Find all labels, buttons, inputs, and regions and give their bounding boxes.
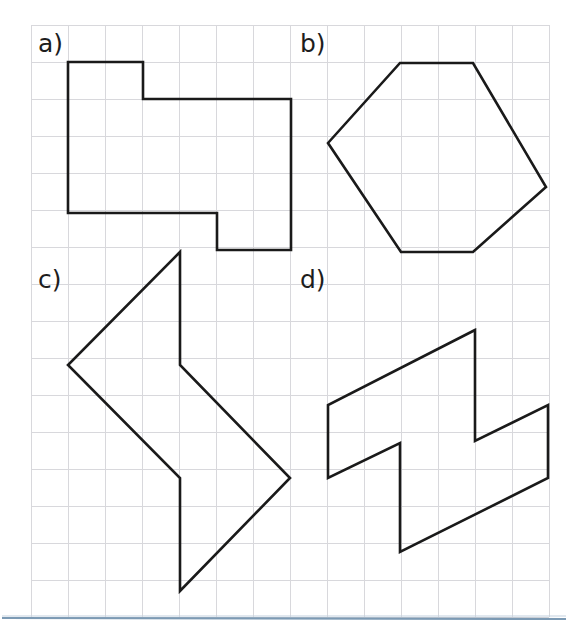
footer-rule-line bbox=[2, 618, 566, 619]
shape-label-a: a) bbox=[38, 29, 63, 58]
geometry-figure: a)b)c)d) bbox=[0, 0, 570, 632]
polygon-group bbox=[68, 62, 548, 591]
polygon-shape-b bbox=[328, 63, 546, 252]
shape-label-b: b) bbox=[300, 29, 326, 58]
shape-label-d: d) bbox=[300, 265, 326, 294]
shape-label-c: c) bbox=[38, 265, 62, 294]
worksheet-canvas: a)b)c)d) bbox=[0, 0, 570, 632]
shape-label-group: a)b)c)d) bbox=[38, 29, 326, 294]
